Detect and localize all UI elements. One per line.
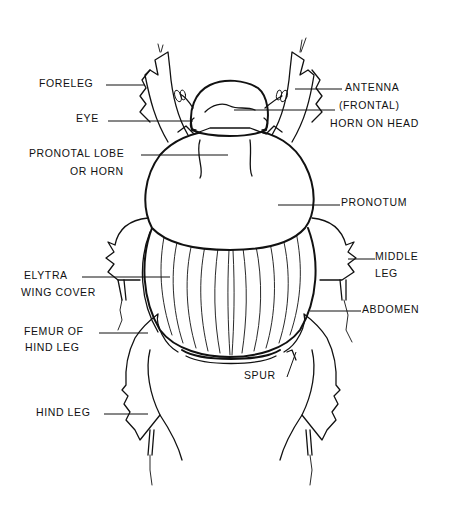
label-middle-leg-line2: LEG xyxy=(375,266,398,280)
label-antenna: ANTENNA xyxy=(345,80,399,94)
beetle-diagram: FORELEG EYE PRONOTAL LOBE OR HORN ELYTRA… xyxy=(0,0,462,520)
pronotum xyxy=(145,130,313,250)
label-femur-line2: HIND LEG xyxy=(25,340,79,354)
label-middle-leg-line1: MIDDLE xyxy=(375,249,418,263)
label-hind-leg: HIND LEG xyxy=(36,405,90,419)
hind-legs xyxy=(122,314,340,485)
head xyxy=(178,81,282,136)
label-elytra-line2: WING COVER xyxy=(21,285,96,299)
label-horn-line1: (FRONTAL) xyxy=(339,98,400,112)
leader-spur xyxy=(287,352,296,377)
label-pronotum: PRONOTUM xyxy=(341,195,407,209)
label-abdomen: ABDOMEN xyxy=(362,302,419,316)
label-eye: EYE xyxy=(76,111,99,125)
label-spur: SPUR xyxy=(244,368,276,382)
label-femur-line1: FEMUR OF xyxy=(24,324,84,338)
label-elytra-line1: ELYTRA xyxy=(24,268,68,282)
label-foreleg: FORELEG xyxy=(39,76,93,90)
label-pronotal-lobe-line1: PRONOTAL LOBE xyxy=(29,146,124,160)
label-pronotal-lobe-line2: OR HORN xyxy=(70,164,124,178)
label-horn-line2: HORN ON HEAD xyxy=(330,116,419,130)
